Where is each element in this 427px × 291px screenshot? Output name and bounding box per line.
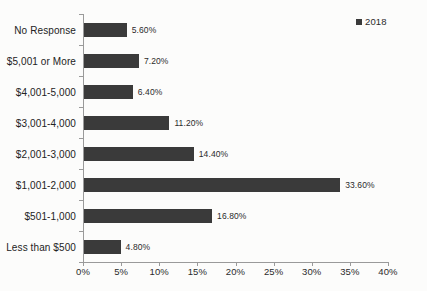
x-axis-tick-label: 35% (340, 266, 359, 277)
x-axis-tick-label: 25% (264, 266, 283, 277)
bar (84, 116, 169, 130)
category-label: Less than $500 (6, 241, 76, 252)
bar-value-label: 5.60% (132, 25, 157, 35)
y-axis-tick (79, 231, 83, 232)
y-axis-tick (79, 107, 83, 108)
y-axis-tick (79, 138, 83, 139)
y-axis-tick (79, 14, 83, 15)
bar-row: $3,001-4,00011.20% (0, 107, 427, 138)
bar (84, 147, 194, 161)
bar-value-label: 4.80% (126, 242, 151, 252)
bar-row: $5,001 or More7.20% (0, 45, 427, 76)
category-label: $1,001-2,000 (16, 179, 76, 190)
x-axis-tick-label: 20% (226, 266, 245, 277)
y-axis-tick (79, 45, 83, 46)
bar (84, 23, 127, 37)
x-axis-tick-label: 40% (378, 266, 397, 277)
bar-value-label: 11.20% (174, 118, 203, 128)
bar-row: $2,001-3,00014.40% (0, 138, 427, 169)
bar-chart: 2018 No Response5.60%$5,001 or More7.20%… (0, 0, 427, 291)
bar-value-label: 6.40% (138, 87, 163, 97)
category-label: $5,001 or More (7, 55, 76, 66)
category-label: $4,001-5,000 (16, 86, 76, 97)
bar (84, 85, 133, 99)
x-axis-tick-label: 10% (150, 266, 169, 277)
y-axis-tick (79, 76, 83, 77)
category-label: $2,001-3,000 (16, 148, 76, 159)
bar-value-label: 7.20% (144, 56, 169, 66)
category-label: $3,001-4,000 (16, 117, 76, 128)
bar-value-label: 33.60% (345, 180, 374, 190)
x-axis-tick-label: 15% (188, 266, 207, 277)
bar-row: Less than $5004.80% (0, 231, 427, 262)
bar (84, 240, 121, 254)
bar-value-label: 16.80% (217, 211, 246, 221)
category-label: $501-1,000 (24, 210, 76, 221)
bar-row: No Response5.60% (0, 14, 427, 45)
category-label: No Response (14, 24, 76, 35)
bar (84, 178, 340, 192)
y-axis-tick (79, 169, 83, 170)
bar-row: $501-1,00016.80% (0, 200, 427, 231)
x-axis-tick-label: 5% (114, 266, 128, 277)
bar-row: $4,001-5,0006.40% (0, 76, 427, 107)
x-axis-tick-label: 30% (302, 266, 321, 277)
x-axis-tick-label: 0% (76, 266, 90, 277)
y-axis-tick (79, 200, 83, 201)
bar (84, 209, 212, 223)
bar-value-label: 14.40% (199, 149, 228, 159)
bar-row: $1,001-2,00033.60% (0, 169, 427, 200)
bar (84, 54, 139, 68)
